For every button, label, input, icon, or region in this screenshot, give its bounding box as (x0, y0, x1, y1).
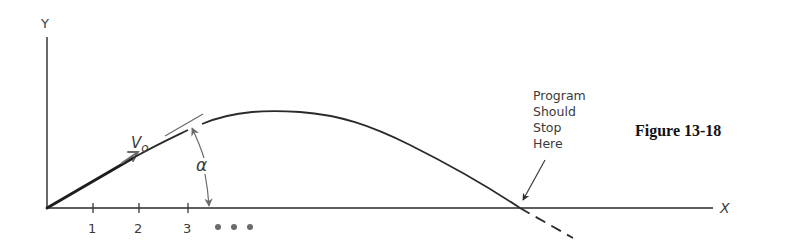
figure-caption: Figure 13-18 (635, 122, 721, 140)
x-tick-3: 3 (183, 221, 191, 236)
angle-alpha-label: α (196, 155, 207, 175)
angle-arc-lower (205, 174, 209, 206)
x-tick-1: 1 (88, 221, 96, 236)
trajectory-curve-main (202, 111, 520, 208)
stop-note-line-4: Here (533, 136, 563, 151)
projectile-diagram: Y X 1 2 3 α Vo Program Should Stop Here … (0, 0, 785, 249)
velocity-label: Vo (131, 134, 149, 155)
stop-note-line-3: Stop (533, 120, 561, 135)
stop-note-line-2: Should (533, 104, 576, 119)
x-axis-label: X (719, 200, 730, 216)
trajectory-dashed-extension (520, 208, 573, 238)
continuation-dots (215, 224, 253, 230)
stop-note: Program Should Stop Here (533, 88, 586, 151)
trajectory-initial-segment (47, 158, 133, 208)
y-axis-label: Y (40, 16, 49, 31)
velocity-subscript: o (141, 141, 148, 155)
angle-arc (192, 128, 204, 158)
x-tick-2: 2 (134, 221, 142, 236)
stop-pointer-arrow (523, 160, 545, 200)
stop-note-line-1: Program (533, 88, 586, 103)
